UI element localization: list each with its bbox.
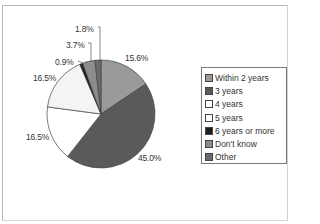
swatch-icon	[205, 140, 213, 148]
swatch-icon	[205, 87, 213, 95]
label-other: 1.8%	[75, 24, 94, 34]
swatch-icon	[205, 100, 213, 108]
label-3-years: 45.0%	[138, 153, 161, 163]
swatch-icon	[205, 74, 213, 82]
swatch-icon	[205, 127, 213, 135]
legend-item-3-years: 3 years	[205, 84, 286, 97]
chart-legend: Within 2 years 3 years 4 years 5 years 6…	[201, 67, 287, 164]
legend-item-dont-know: Don't know	[205, 137, 286, 150]
legend-item-4-years: 4 years	[205, 98, 286, 111]
label-dont-know: 3.7%	[66, 40, 85, 50]
label-6-years-or-more: 0.9%	[55, 57, 74, 67]
swatch-icon	[205, 153, 213, 161]
leader-line	[88, 43, 91, 62]
legend-item-6-years-or-more: 6 years or more	[205, 124, 286, 137]
legend-item-5-years: 5 years	[205, 111, 286, 124]
legend-item-other: Other	[205, 151, 286, 164]
leader-line	[78, 61, 83, 63]
swatch-icon	[205, 114, 213, 122]
label-4-years: 16.5%	[26, 132, 49, 142]
leader-line	[98, 27, 100, 62]
legend-item-within-2-years: Within 2 years	[205, 71, 286, 84]
label-5-years: 16.5%	[33, 73, 56, 83]
label-within-2-years: 15.6%	[125, 53, 148, 63]
